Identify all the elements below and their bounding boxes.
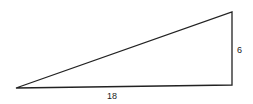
horizontal-side-label: 18 <box>107 91 117 101</box>
vertical-side-label: 6 <box>237 45 242 55</box>
triangle-diagram: 6 18 <box>0 0 253 104</box>
right-triangle <box>16 12 232 88</box>
